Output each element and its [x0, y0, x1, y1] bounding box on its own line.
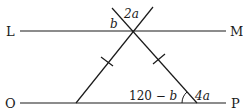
- angle-label-120-minus-b: 120 − b: [129, 89, 177, 103]
- angle-label-b: b: [110, 17, 118, 31]
- angle-label-2a: 2a: [123, 7, 139, 21]
- angle-label-4a: 4a: [194, 89, 210, 103]
- point-label-p: P: [231, 96, 240, 111]
- angle-arc-base: [182, 92, 187, 103]
- geometry-diagram: L M O P b 2a 120 − b 4a: [0, 0, 243, 112]
- point-label-l: L: [6, 24, 15, 39]
- point-label-m: M: [230, 24, 243, 39]
- point-label-o: O: [5, 96, 16, 111]
